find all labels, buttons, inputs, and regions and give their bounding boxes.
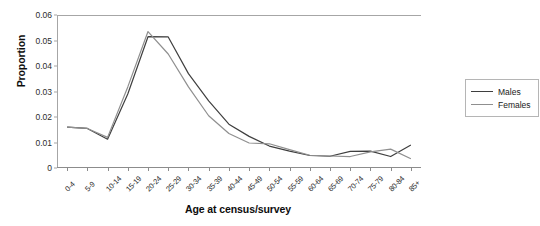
x-tick-mark <box>370 168 371 171</box>
y-tick-label: 0 <box>47 163 52 173</box>
x-tick-mark <box>148 168 149 171</box>
y-tick-label: 0.05 <box>35 36 52 46</box>
x-tick-label: 75-79 <box>366 174 385 193</box>
x-tick-mark <box>411 168 412 171</box>
x-tick-mark <box>290 168 291 171</box>
chart-figure: Proportion Age at census/survey 00.010.0… <box>0 0 540 226</box>
x-tick-mark <box>350 168 351 171</box>
x-tick-label: 35-39 <box>205 174 224 193</box>
x-tick-label: 65-69 <box>326 174 345 193</box>
x-tick-label: 0-4 <box>63 180 77 194</box>
x-tick-label: 70-74 <box>346 174 365 193</box>
x-axis-title: Age at census/survey <box>55 203 421 215</box>
x-tick-mark <box>168 168 169 171</box>
x-tick-label: 25-29 <box>164 174 183 193</box>
x-tick-mark <box>269 168 270 171</box>
y-tick-label: 0.02 <box>35 112 52 122</box>
x-tick-mark <box>108 168 109 171</box>
x-tick-label: 80-84 <box>387 174 406 193</box>
legend-item-males: Males <box>471 85 531 98</box>
x-tick-label: 55-59 <box>286 174 305 193</box>
x-tick-mark <box>87 168 88 171</box>
x-tick-label: 20-24 <box>144 174 163 193</box>
legend-label-males: Males <box>498 87 521 97</box>
x-tick-mark <box>330 168 331 171</box>
x-tick-mark <box>391 168 392 171</box>
x-tick-mark <box>188 168 189 171</box>
y-tick-label: 0.03 <box>35 87 52 97</box>
legend-swatch-males <box>471 91 493 92</box>
x-tick-mark <box>128 168 129 171</box>
legend-label-females: Females <box>498 100 531 110</box>
x-tick-label: 5-9 <box>83 180 97 194</box>
legend-swatch-females <box>471 104 493 105</box>
x-tick-mark <box>249 168 250 171</box>
x-tick-mark <box>209 168 210 171</box>
plot-area: 00.010.020.030.040.050.06 0-45-910-1415-… <box>57 15 421 168</box>
x-tick-label: 10-14 <box>104 174 123 193</box>
y-axis-title: Proportion <box>15 0 27 126</box>
data-lines <box>57 15 421 168</box>
x-tick-label: 40-44 <box>225 174 244 193</box>
x-tick-label: 15-19 <box>124 174 143 193</box>
x-tick-label: 45-49 <box>245 174 264 193</box>
y-tick-label: 0.06 <box>35 10 52 20</box>
x-tick-mark <box>310 168 311 171</box>
y-tick-label: 0.04 <box>35 61 52 71</box>
y-tick-label: 0.01 <box>35 138 52 148</box>
x-tick-label: 50-54 <box>265 174 284 193</box>
x-tick-label: 60-64 <box>306 174 325 193</box>
x-tick-label: 85+ <box>407 178 422 193</box>
legend-item-females: Females <box>471 98 531 111</box>
x-tick-label: 30-34 <box>184 174 203 193</box>
series-line-females <box>67 32 411 159</box>
chart-legend: Males Females <box>465 79 539 117</box>
x-tick-mark <box>67 168 68 171</box>
x-tick-mark <box>229 168 230 171</box>
